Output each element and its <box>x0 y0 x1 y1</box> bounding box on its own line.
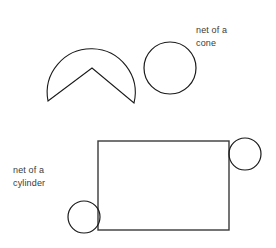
cylinder-bottom-circle-shape <box>68 201 100 233</box>
cylinder-top-circle-shape <box>229 138 261 170</box>
cylinder-label: net of a cylinder <box>13 164 83 190</box>
cone-base-circle-shape <box>144 42 196 94</box>
cylinder-rectangle-shape <box>98 141 229 230</box>
cone-sector-shape <box>47 49 135 103</box>
cone-label: net of a cone <box>196 24 260 50</box>
figure-canvas: net of a cone net of a cylinder <box>0 0 276 248</box>
